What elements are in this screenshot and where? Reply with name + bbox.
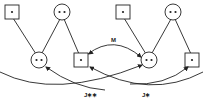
j-double-star-label: J∗∗ [84,92,97,98]
right-circle-bottom-node [141,52,157,68]
j-single-star-label: J∗ [142,92,150,98]
left-square-bottom-node [74,53,88,67]
m-label: M [111,37,116,43]
diagram-canvas: M J∗∗ J∗ [0,0,204,102]
right-circle-top-node [165,4,181,20]
left-circle-bottom-node [31,52,47,68]
right-links [124,18,191,54]
right-square-bottom-node [185,53,199,67]
arc-to-left-square [90,67,203,85]
left-circle-top-node [54,4,70,20]
m-arrow [88,45,141,57]
m-arrow-left-head [89,44,112,54]
right-square-top-node [116,5,130,19]
left-square-top-node [5,5,19,19]
left-links [13,18,79,54]
